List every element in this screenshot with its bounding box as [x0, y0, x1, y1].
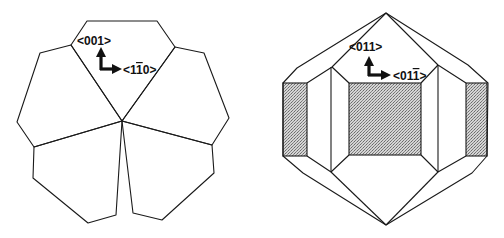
axis-label-1-10: <110>	[123, 63, 156, 77]
segment-upper-right	[122, 47, 229, 145]
shaded-facet-center	[349, 83, 421, 155]
edge-lower-left	[307, 155, 349, 172]
crystal-diagram: <001> <110> <011> <011>	[0, 0, 504, 238]
axis-label-001: <001>	[77, 34, 111, 48]
segment-lower-left	[33, 121, 122, 223]
edge-lower-right	[421, 155, 466, 172]
axis-label-01-1: <011>	[393, 69, 426, 83]
edge-upper-left-center	[332, 67, 349, 83]
arrow-right-icon	[112, 64, 122, 74]
axis-label-011: <011>	[349, 40, 382, 54]
shaded-facet-left	[283, 83, 307, 156]
right-crystal: <011> <011>	[283, 13, 488, 225]
segment-upper-left	[17, 45, 122, 147]
edge-lower-left-apex	[331, 172, 386, 225]
segment-lower-right	[122, 121, 214, 220]
left-crystal: <001> <110>	[17, 21, 229, 223]
arrow-up-icon	[96, 47, 106, 57]
shaded-facet-right	[466, 83, 487, 156]
arrow-up-icon	[364, 56, 374, 66]
axis-arrows	[364, 56, 391, 80]
arrow-right-icon	[381, 70, 391, 80]
axis-arrows	[96, 47, 122, 74]
